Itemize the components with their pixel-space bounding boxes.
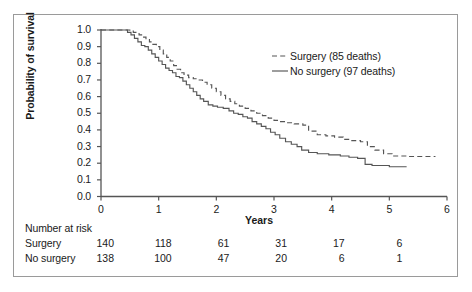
y-tick-label-0.5: 0.5: [59, 106, 91, 118]
x-tick-label-2: 2: [206, 203, 226, 215]
survival-curve-surgery: [101, 30, 435, 157]
y-tick-label-0.2: 0.2: [59, 156, 91, 168]
y-tick-label-0.9: 0.9: [59, 40, 91, 52]
y-tick-label-0.3: 0.3: [59, 140, 91, 152]
risk-value: 47: [203, 252, 229, 264]
x-tick-label-1: 1: [149, 203, 169, 215]
y-tick-label-0.8: 0.8: [59, 56, 91, 68]
legend-label-surgery: Surgery (85 deaths): [290, 50, 381, 62]
y-tick-label-0.0: 0.0: [59, 190, 91, 202]
risk-value: 138: [88, 252, 114, 264]
x-axis-title: Years: [245, 214, 273, 226]
x-tick-label-0: 0: [91, 203, 111, 215]
survival-curves-group: [101, 30, 435, 167]
x-tick-label-6: 6: [437, 203, 457, 215]
risk-value: 6: [376, 237, 402, 249]
risk-row-label-no-surgery: No surgery: [25, 252, 75, 264]
risk-value: 118: [146, 237, 172, 249]
y-tick-label-1.0: 1.0: [59, 23, 91, 35]
axes-group: [97, 29, 447, 201]
legend-label-no-surgery: No surgery (97 deaths): [290, 65, 395, 77]
y-tick-label-0.1: 0.1: [59, 173, 91, 185]
y-axis-title: Probability of survival: [24, 0, 36, 146]
risk-value: 17: [319, 237, 345, 249]
risk-value: 61: [203, 237, 229, 249]
y-tick-label-0.4: 0.4: [59, 123, 91, 135]
risk-value: 6: [319, 252, 345, 264]
y-tick-label-0.7: 0.7: [59, 73, 91, 85]
risk-value: 140: [88, 237, 114, 249]
survival-chart-figure: Probability of survival 0.00.10.20.30.40…: [0, 0, 472, 292]
risk-value: 31: [261, 237, 287, 249]
risk-table-title: Number at risk: [25, 222, 92, 234]
risk-value: 1: [376, 252, 402, 264]
x-tick-label-5: 5: [379, 203, 399, 215]
legend-sample-lines: [272, 56, 288, 71]
risk-value: 100: [146, 252, 172, 264]
x-tick-label-4: 4: [322, 203, 342, 215]
y-tick-label-0.6: 0.6: [59, 90, 91, 102]
x-tick-label-3: 3: [264, 203, 284, 215]
risk-row-label-surgery: Surgery: [25, 237, 61, 249]
risk-value: 20: [261, 252, 287, 264]
